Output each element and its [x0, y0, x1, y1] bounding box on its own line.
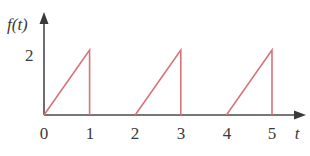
x-tick-3: 3: [177, 124, 186, 143]
x-tick-2: 2: [131, 124, 140, 143]
x-axis-label: t: [295, 124, 301, 143]
y-axis-arrow-icon: [40, 12, 49, 24]
x-tick-5: 5: [268, 124, 277, 143]
x-tick-0: 0: [40, 124, 49, 143]
y-axis-label: f(t): [7, 15, 28, 34]
series-f-t: [44, 50, 272, 115]
chart: f(t) 2 0 1 2 3 4 5 t: [0, 0, 310, 156]
x-tick-4: 4: [223, 124, 232, 143]
sawtooth-pulse-0: [44, 50, 90, 115]
y-tick-2: 2: [25, 46, 34, 65]
sawtooth-pulse-2: [226, 50, 272, 115]
x-tick-1: 1: [86, 124, 95, 143]
x-axis-arrow-icon: [294, 111, 306, 120]
sawtooth-pulse-1: [135, 50, 181, 115]
